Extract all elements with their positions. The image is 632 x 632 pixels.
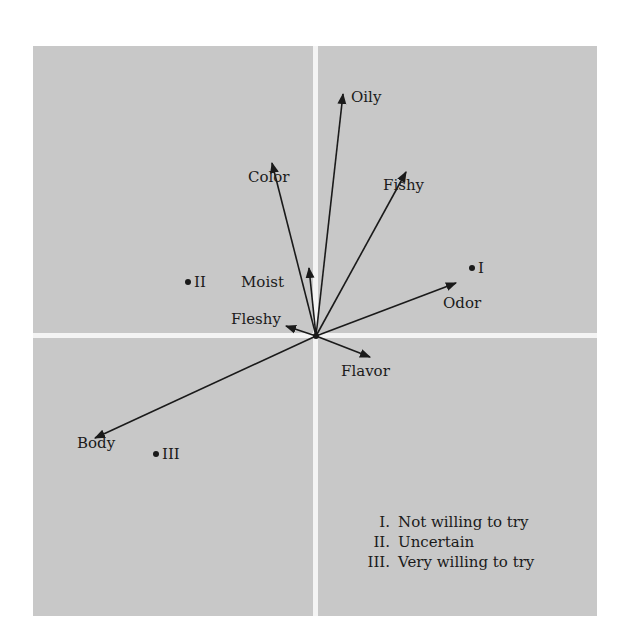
vector-odor: [316, 283, 456, 336]
label-moist: Moist: [241, 275, 284, 290]
point-III-label: III: [162, 447, 180, 462]
label-fleshy: Fleshy: [231, 312, 281, 327]
vector-oily: [316, 94, 343, 336]
legend-key: II.: [348, 533, 398, 551]
biplot-vectors: [0, 0, 632, 632]
label-body: Body: [77, 436, 115, 451]
legend-text: Uncertain: [398, 533, 474, 551]
point-II-label: II: [194, 275, 206, 290]
legend-key: III.: [348, 553, 398, 571]
point-I-label: I: [478, 261, 484, 276]
label-oily: Oily: [351, 90, 381, 105]
label-odor: Odor: [443, 296, 481, 311]
label-fishy: Fishy: [383, 178, 424, 193]
point-II-marker: [185, 279, 191, 285]
legend-key: I.: [348, 513, 398, 531]
legend-item: II. Uncertain: [348, 532, 534, 552]
label-color: Color: [248, 170, 290, 185]
vector-fishy: [316, 172, 406, 336]
legend: I. Not willing to try II. Uncertain III.…: [348, 512, 534, 572]
vector-body: [95, 336, 316, 438]
origin-point: [313, 333, 319, 339]
legend-text: Not willing to try: [398, 513, 529, 531]
point-III-marker: [153, 451, 159, 457]
label-flavor: Flavor: [341, 364, 390, 379]
legend-text: Very willing to try: [398, 553, 534, 571]
vector-flavor: [316, 336, 370, 357]
point-I-marker: [469, 265, 475, 271]
vector-fleshy: [286, 326, 316, 336]
legend-item: III. Very willing to try: [348, 552, 534, 572]
legend-item: I. Not willing to try: [348, 512, 534, 532]
vector-moist: [309, 268, 316, 336]
